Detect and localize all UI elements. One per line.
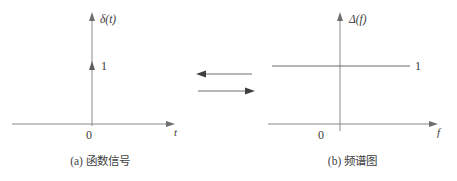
inverse-transform-arrowhead-icon (196, 71, 206, 78)
panel-signal-origin-label: 0 (86, 129, 92, 141)
caption-signal: (a) 函数信号 (0, 152, 200, 168)
spectrum-axis-arrowhead-icon (337, 12, 343, 21)
panel-spectrum-level-value: 1 (415, 60, 421, 72)
panel-signal-impulse-value: 1 (101, 60, 107, 72)
panel-signal-x-label: t (174, 127, 177, 138)
panel-spectrum-y-label: Δ(f) (349, 14, 367, 26)
panel-spectrum-x-label: f (437, 127, 440, 138)
impulse-arrowhead-icon (89, 61, 95, 70)
delta-axis-arrowhead-icon (89, 12, 95, 21)
panel-signal-y-label: δ(t) (100, 14, 116, 26)
figure-container: δ(t) 1 0 t Δ(f) 1 0 f (a) 函数信号 (b) 频谱图 (0, 0, 457, 181)
caption-spectrum: (b) 频谱图 (248, 152, 457, 168)
panel-spectrum-origin-label: 0 (318, 129, 324, 141)
